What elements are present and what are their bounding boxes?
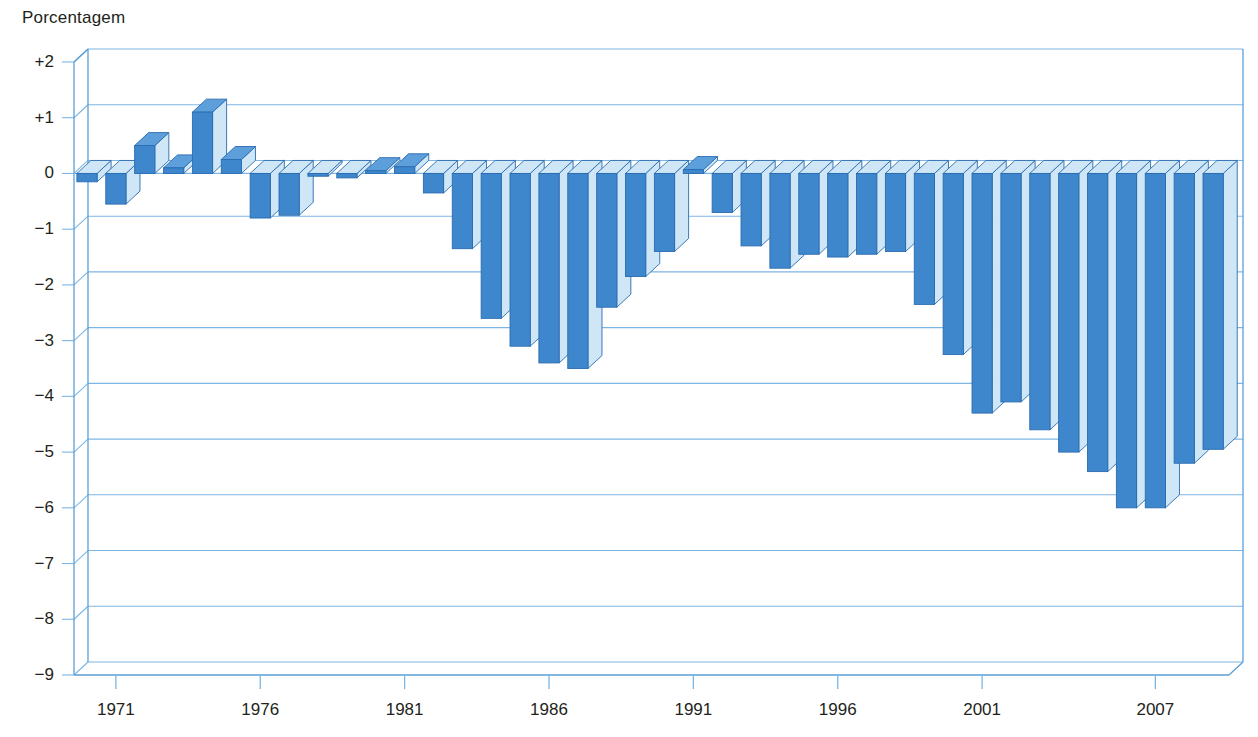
y-tick-label: −3 [8, 331, 54, 351]
bar [683, 157, 717, 174]
y-tick-label: −9 [8, 665, 54, 685]
x-tick-label: 2001 [963, 700, 1001, 720]
y-tick-label: 0 [8, 163, 54, 183]
bar [395, 154, 429, 174]
x-tick-label: 2007 [1136, 700, 1174, 720]
bar [654, 160, 688, 251]
x-tick-label: 1981 [386, 700, 424, 720]
x-tick-label: 1971 [97, 700, 135, 720]
y-tick-label: −5 [8, 442, 54, 462]
y-tick-label: +2 [8, 52, 54, 72]
percentage-bar-chart: Porcentagem +2+10−1−2−3−4−5−6−7−8−9 1971… [0, 0, 1258, 737]
bars [77, 99, 1237, 508]
x-tick-label: 1991 [674, 700, 712, 720]
y-tick-label: −1 [8, 219, 54, 239]
bar [279, 160, 313, 215]
y-tick-label: −8 [8, 609, 54, 629]
x-tick-label: 1976 [241, 700, 279, 720]
y-tick-label: −4 [8, 386, 54, 406]
x-tick-marks [116, 675, 1156, 689]
bar [1203, 160, 1237, 449]
x-tick-label: 1986 [530, 700, 568, 720]
plot-area [0, 0, 1258, 737]
y-tick-label: +1 [8, 108, 54, 128]
y-tick-label: −2 [8, 275, 54, 295]
y-tick-label: −6 [8, 498, 54, 518]
x-tick-label: 1996 [819, 700, 857, 720]
y-tick-label: −7 [8, 554, 54, 574]
